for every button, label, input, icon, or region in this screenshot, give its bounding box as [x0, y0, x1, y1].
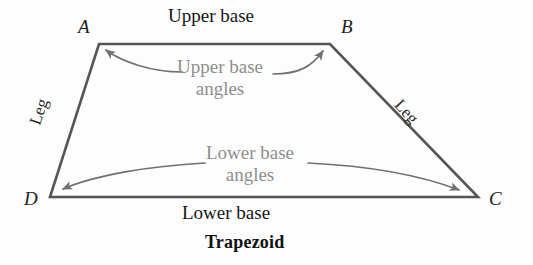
vertex-label-c: C [489, 189, 502, 209]
lower-base-angles-line-2: angles [175, 164, 325, 186]
vertex-label-a: A [78, 17, 90, 37]
vertex-label-d: D [24, 189, 38, 209]
trapezoid-geometry-svg [0, 0, 533, 265]
upper-base-label: Upper base [168, 6, 254, 26]
arrow-lower-base-angle-c [308, 163, 459, 190]
upper-base-angles-line-1: Upper base [150, 56, 290, 78]
trapezoid-figure: A B C D Upper base Lower base Leg Leg Up… [0, 0, 533, 265]
lower-base-angles-annotation: Lower base angles [175, 142, 325, 186]
lower-base-label: Lower base [182, 203, 270, 223]
vertex-label-b: B [341, 17, 353, 37]
upper-base-angles-line-2: angles [150, 78, 290, 100]
figure-caption: Trapezoid [205, 233, 284, 252]
lower-base-angles-line-1: Lower base [175, 142, 325, 164]
upper-base-angles-annotation: Upper base angles [150, 56, 290, 100]
